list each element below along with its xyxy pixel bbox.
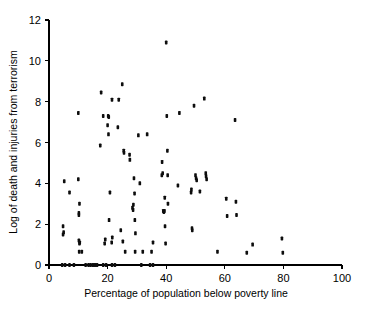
data-point	[121, 82, 124, 86]
data-point	[96, 263, 99, 267]
data-point	[161, 160, 164, 164]
data-point	[73, 263, 76, 267]
data-point	[89, 263, 92, 267]
data-point	[100, 90, 103, 94]
data-point	[152, 241, 155, 245]
data-point	[78, 250, 81, 254]
data-point	[68, 263, 71, 267]
data-point	[163, 196, 166, 200]
data-point	[132, 208, 135, 212]
data-point	[62, 230, 65, 234]
data-point	[161, 171, 164, 175]
x-tick-label: 20	[101, 272, 113, 284]
data-point	[149, 263, 152, 267]
data-point	[140, 263, 143, 267]
y-tick-label: 4	[35, 177, 41, 189]
data-point	[106, 123, 109, 127]
data-point	[107, 132, 110, 136]
data-point	[134, 218, 137, 222]
x-axis-title: Percentage of population below poverty l…	[84, 287, 288, 299]
data-point	[165, 40, 168, 44]
data-point	[199, 190, 202, 194]
data-markers	[61, 40, 284, 267]
data-point	[251, 243, 254, 247]
data-point	[150, 250, 153, 254]
x-axis-tick-labels: 020406080100	[46, 272, 351, 284]
data-point	[132, 203, 135, 207]
data-point	[105, 263, 108, 267]
data-point	[205, 177, 208, 181]
data-point	[78, 213, 81, 217]
data-point	[152, 263, 155, 267]
data-point	[81, 250, 84, 254]
data-point	[167, 202, 170, 206]
data-point	[103, 242, 106, 246]
data-point	[137, 133, 140, 137]
data-point	[111, 235, 114, 239]
data-point	[110, 241, 113, 245]
data-point	[68, 191, 71, 195]
data-point	[62, 224, 65, 228]
data-point	[114, 263, 117, 267]
data-point	[84, 263, 87, 267]
data-point	[281, 236, 284, 240]
y-axis-tick-labels: 024681012	[29, 14, 41, 271]
data-point	[64, 263, 67, 267]
data-point	[195, 178, 198, 182]
data-point	[166, 149, 169, 153]
data-point	[164, 242, 167, 246]
x-tick-label: 0	[46, 272, 52, 284]
data-point	[190, 187, 193, 191]
data-point	[108, 218, 111, 222]
data-point	[77, 177, 80, 181]
data-point	[133, 176, 136, 180]
data-point	[177, 183, 180, 187]
y-tick-label: 0	[35, 259, 41, 271]
data-point	[77, 111, 80, 115]
data-point	[129, 158, 132, 162]
data-point	[102, 114, 105, 118]
plot-canvas: 024681012 020406080100 Percentage of pop…	[0, 0, 371, 310]
data-point	[193, 104, 196, 108]
data-point	[104, 237, 107, 241]
data-point	[117, 125, 120, 129]
data-point	[122, 240, 125, 244]
data-point	[109, 191, 112, 195]
data-point	[226, 214, 229, 218]
data-point	[63, 179, 66, 183]
y-axis-title: Log of death and injuries from terrorism	[7, 50, 19, 234]
data-point	[163, 209, 166, 213]
data-point	[141, 250, 144, 254]
data-point	[282, 251, 285, 255]
data-point	[235, 200, 238, 204]
data-point	[139, 181, 142, 185]
data-point	[203, 97, 206, 101]
data-point	[146, 132, 149, 136]
y-tick-label: 6	[35, 137, 41, 149]
data-point	[166, 173, 169, 177]
y-tick-label: 2	[35, 218, 41, 230]
x-tick-label: 80	[277, 272, 289, 284]
data-point	[111, 98, 114, 102]
data-point	[133, 192, 136, 196]
data-point	[99, 144, 102, 148]
scatter-plot-figure: 024681012 020406080100 Percentage of pop…	[0, 0, 371, 310]
x-tick-label: 40	[160, 272, 172, 284]
data-point	[191, 228, 194, 232]
data-point	[245, 251, 248, 255]
data-point	[134, 250, 137, 254]
data-point	[235, 213, 238, 217]
data-point	[119, 228, 122, 232]
data-point	[102, 263, 105, 267]
data-point	[178, 111, 181, 115]
y-tick-label: 8	[35, 96, 41, 108]
data-point	[61, 263, 64, 267]
data-point	[124, 250, 127, 254]
data-point	[134, 231, 137, 235]
x-tick-label: 60	[219, 272, 231, 284]
data-point	[123, 151, 126, 155]
data-point	[216, 250, 219, 254]
data-point	[128, 153, 131, 157]
y-tick-label: 12	[29, 14, 41, 26]
data-point	[165, 114, 168, 118]
